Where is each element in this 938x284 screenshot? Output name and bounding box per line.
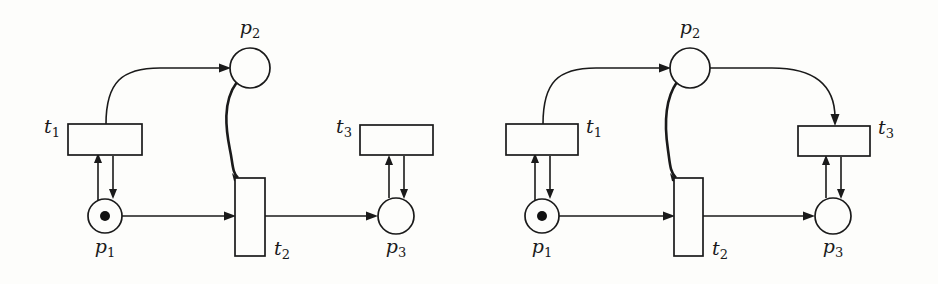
figure-canvas: t1 t2 t3 p1 p2 p3: [0, 0, 938, 284]
transition-t1[interactable]: [506, 124, 578, 155]
transition-t1[interactable]: [68, 124, 142, 155]
token-p1: [537, 211, 547, 221]
transition-t3[interactable]: [798, 126, 870, 156]
place-p3[interactable]: [815, 198, 851, 234]
transition-t3[interactable]: [360, 125, 433, 155]
place-p2[interactable]: [670, 48, 710, 88]
place-p2[interactable]: [230, 48, 270, 88]
place-p3[interactable]: [378, 198, 414, 234]
transition-t2[interactable]: [235, 178, 265, 256]
petri-net-figure: t1 t2 t3 p1 p2 p3: [0, 0, 938, 284]
transition-t2[interactable]: [674, 178, 703, 256]
token-p1: [100, 211, 110, 221]
